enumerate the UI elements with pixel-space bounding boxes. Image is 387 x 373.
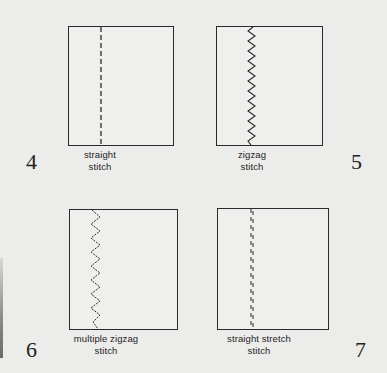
fabric-panel-straight-stretch-stitch	[217, 208, 329, 330]
page-edge-shadow	[0, 258, 3, 358]
multiple-zigzag-stitch-line	[70, 210, 179, 331]
zigzag-stitch-line	[217, 27, 324, 147]
caption-zigzag-stitch: zigzag stitch	[232, 149, 272, 173]
fabric-panel-multiple-zigzag-stitch	[69, 209, 178, 330]
figure-number-4: 4	[26, 151, 37, 173]
figure-number-7: 7	[355, 339, 366, 361]
fabric-panel-straight-stitch	[68, 26, 174, 146]
straight-stitch-line	[69, 27, 175, 147]
caption-straight-stretch-stitch: straight stretch stitch	[214, 333, 304, 357]
caption-straight-stitch: straight stitch	[70, 149, 130, 173]
figure-number-5: 5	[351, 151, 362, 173]
caption-multiple-zigzag-stitch: multiple zigzag stitch	[66, 333, 146, 357]
figure-number-6: 6	[26, 339, 37, 361]
fabric-panel-zigzag-stitch	[216, 26, 323, 146]
straight-stretch-stitch-line	[218, 209, 330, 331]
